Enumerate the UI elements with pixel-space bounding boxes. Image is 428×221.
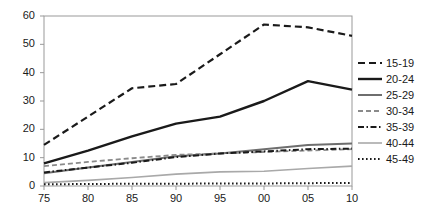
x-tick-label: 90 xyxy=(161,192,191,204)
y-tick-label: 50 xyxy=(5,37,35,49)
legend-line-swatch-45-49 xyxy=(357,153,383,165)
y-tick-label: 10 xyxy=(5,151,35,163)
legend-item-30-34[interactable]: 30-34 xyxy=(357,103,428,119)
x-tick-label: 00 xyxy=(249,192,279,204)
legend-line-swatch-20-24 xyxy=(357,73,383,85)
plot-frame xyxy=(40,16,352,190)
legend-item-35-39[interactable]: 35-39 xyxy=(357,119,428,135)
legend-label: 25-29 xyxy=(383,89,414,101)
y-tick-label: 60 xyxy=(5,9,35,21)
legend-item-45-49[interactable]: 45-49 xyxy=(357,151,428,167)
plot-area-border xyxy=(44,16,352,186)
x-tick-label: 75 xyxy=(29,192,59,204)
legend-label: 35-39 xyxy=(383,121,414,133)
y-tick-label: 40 xyxy=(5,66,35,78)
chart-legend: 15-1920-2425-2930-3435-3940-4445-49 xyxy=(357,55,428,167)
legend-label: 30-34 xyxy=(383,105,414,117)
x-tick-label: 95 xyxy=(205,192,235,204)
x-tick-label: 10 xyxy=(337,192,367,204)
legend-label: 45-49 xyxy=(383,153,414,165)
x-tick-label: 80 xyxy=(73,192,103,204)
legend-item-25-29[interactable]: 25-29 xyxy=(357,87,428,103)
legend-line-swatch-30-34 xyxy=(357,105,383,117)
chart-container: 6050403020100 7580859095000510 15-1920-2… xyxy=(0,0,428,221)
legend-line-swatch-15-19 xyxy=(357,57,383,69)
legend-line-swatch-35-39 xyxy=(357,121,383,133)
legend-item-15-19[interactable]: 15-19 xyxy=(357,55,428,71)
legend-label: 20-24 xyxy=(383,73,414,85)
y-tick-label: 20 xyxy=(5,122,35,134)
legend-line-swatch-40-44 xyxy=(357,137,383,149)
legend-item-40-44[interactable]: 40-44 xyxy=(357,135,428,151)
x-tick-label: 85 xyxy=(117,192,147,204)
x-tick-label: 05 xyxy=(293,192,323,204)
legend-item-20-24[interactable]: 20-24 xyxy=(357,71,428,87)
legend-label: 40-44 xyxy=(383,137,414,149)
legend-line-swatch-25-29 xyxy=(357,89,383,101)
y-tick-label: 30 xyxy=(5,94,35,106)
legend-label: 15-19 xyxy=(383,57,414,69)
y-tick-label: 0 xyxy=(5,179,35,191)
